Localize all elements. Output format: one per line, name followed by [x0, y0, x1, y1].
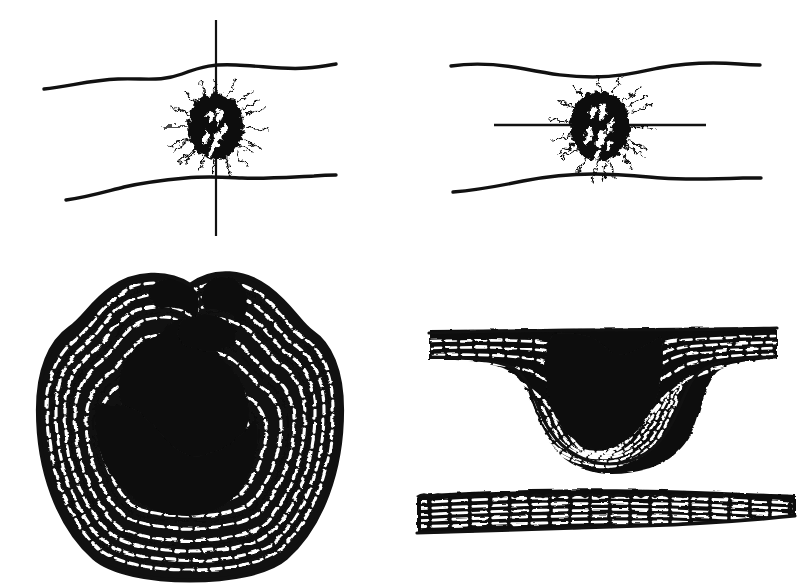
upper-grained-band	[429, 327, 777, 474]
panel-bottom-left	[0, 258, 403, 585]
upper-bark-contour	[44, 64, 336, 89]
lower-bark-contour	[453, 174, 761, 192]
figure-plate	[0, 0, 806, 585]
panel-top-left	[0, 0, 403, 260]
panel-top-right	[403, 0, 806, 260]
upper-bark-contour	[451, 63, 760, 77]
lower-bark-contour	[66, 175, 336, 200]
lower-grained-band	[413, 489, 799, 533]
wound-blob	[549, 74, 655, 182]
panel-bottom-right	[403, 300, 806, 585]
